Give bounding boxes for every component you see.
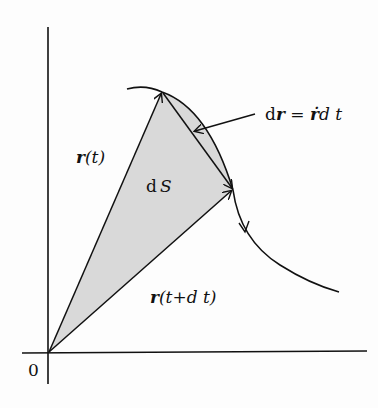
label-r-t-plus-dt: r(t+d t) <box>150 287 216 307</box>
label-r-t-arg: (t) <box>85 147 105 167</box>
origin-label: 0 <box>28 360 39 380</box>
label-dr-d: d <box>265 104 276 124</box>
area-sweep-diagram: r(t) dS r(t+d t) dr = ṙd t 0 <box>0 0 378 408</box>
label-dr-eq: = <box>285 104 310 124</box>
label-dS-var: S <box>160 176 172 196</box>
dr-pointer-arrow <box>195 114 255 131</box>
label-r-t-dt-arg: (t+d t) <box>159 287 216 307</box>
x-axis <box>22 351 367 353</box>
label-dr-dt: d t <box>319 104 342 124</box>
label-dr-equation: dr = ṙd t <box>265 104 342 124</box>
label-dS-d: d <box>146 176 157 196</box>
swept-area-dS <box>49 92 233 352</box>
label-r-t: r(t) <box>76 147 105 167</box>
